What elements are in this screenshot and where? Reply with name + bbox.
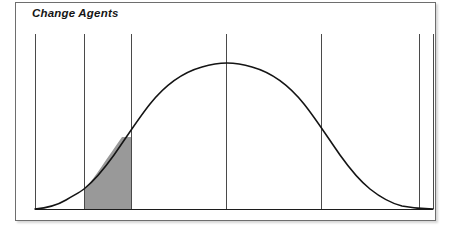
shaded-region	[84, 137, 131, 209]
figure-frame: Change Agents	[15, 2, 436, 221]
bell-curve-chart	[16, 3, 437, 222]
